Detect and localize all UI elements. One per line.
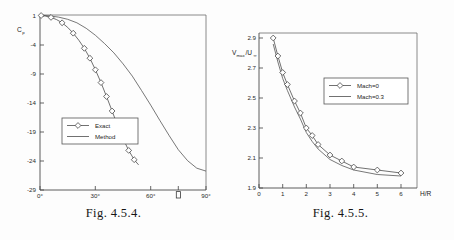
- plot-axes: [40, 15, 206, 190]
- x-tick-label: 2: [305, 190, 309, 197]
- legend-vmax: Mach=0 Mach=0.3: [324, 78, 408, 104]
- plot-frame: [40, 15, 206, 190]
- figure-left: 1 -4 -9 -14 -19 -24 -29 C p: [0, 0, 227, 240]
- x-axis-tick-labels: 0° 30° 60° 90°: [37, 192, 211, 199]
- y-tick-label: -29: [27, 186, 37, 193]
- y-tick-label: -24: [27, 157, 37, 164]
- figure-caption-left: Fig. 4.5.4.: [0, 206, 227, 221]
- x-tick-label: 3: [328, 190, 332, 197]
- y-axis-title-sub: p: [22, 30, 25, 35]
- missing-glyph-box-icon: [176, 192, 180, 198]
- x-tick-label: 30°: [91, 192, 101, 199]
- x-tick-label: 90°: [201, 192, 211, 199]
- y-tick-label: 2.5: [247, 94, 256, 101]
- y-tick-label: -19: [27, 128, 37, 135]
- legend-label-method: Method: [95, 133, 115, 140]
- y-tick-label: 2.1: [247, 154, 256, 161]
- plot-frame: [259, 33, 417, 188]
- x-axis-title: H/R: [420, 190, 432, 197]
- y-tick-label: 1.9: [247, 184, 256, 191]
- x-axis-tick-labels: 0 1 2 3 4 5 6: [257, 190, 403, 197]
- y-tick-label: 2.3: [247, 124, 256, 131]
- figure-right: 2.9 2.7 2.5 2.3 2.1 1.9 V max /U ∞: [227, 0, 454, 240]
- y-axis-ticks: [259, 38, 263, 188]
- series-method-line: [40, 15, 206, 171]
- x-tick-label: 60°: [146, 192, 156, 199]
- x-axis-ticks: [259, 184, 401, 188]
- y-axis-title: V max /U ∞: [232, 49, 257, 58]
- x-tick-label: 0°: [37, 192, 43, 199]
- plot-area-vmax: 2.9 2.7 2.5 2.3 2.1 1.9 V max /U ∞: [227, 0, 454, 205]
- y-tick-label: 1: [33, 12, 37, 19]
- x-axis-ticks: [40, 186, 206, 190]
- y-axis-ticks: [40, 16, 44, 190]
- legend-label-exact: Exact: [95, 122, 111, 129]
- y-tick-label: 2.7: [247, 64, 256, 71]
- legend-cp: Exact Method: [62, 118, 138, 144]
- y-tick-label: 2.9: [247, 34, 256, 41]
- y-axis-tick-labels: 1 -4 -9 -14 -19 -24 -29: [27, 12, 37, 193]
- y-axis-title-slash-u: /U: [246, 49, 253, 56]
- x-tick-label: 4: [352, 190, 356, 197]
- y-tick-label: -4: [30, 41, 36, 48]
- chart-vmax: 2.9 2.7 2.5 2.3 2.1 1.9 V max /U ∞: [227, 0, 454, 205]
- x-tick-label: 1: [281, 190, 285, 197]
- y-tick-label: -9: [30, 70, 36, 77]
- series-mach0-markers: [270, 35, 404, 176]
- chart-cp: 1 -4 -9 -14 -19 -24 -29 C p: [0, 0, 227, 205]
- plot-area-cp: 1 -4 -9 -14 -19 -24 -29 C p: [0, 0, 227, 205]
- legend-label-mach03: Mach=0.3: [357, 93, 385, 100]
- figure-caption-right: Fig. 4.5.5.: [227, 206, 454, 221]
- y-axis-title-v-sub: max: [237, 53, 246, 58]
- figure-page: 1 -4 -9 -14 -19 -24 -29 C p: [0, 0, 454, 240]
- x-tick-label: 0: [257, 190, 261, 197]
- y-axis-title: C p: [17, 26, 25, 35]
- y-tick-label: -14: [27, 99, 37, 106]
- series-mach03-line: [273, 44, 401, 176]
- y-axis-title-u-sub: ∞: [254, 53, 257, 58]
- series-mach0-line: [273, 38, 401, 173]
- x-tick-label: 6: [399, 190, 403, 197]
- plot-axes: [259, 33, 417, 188]
- legend-label-mach0: Mach=0: [357, 82, 379, 89]
- x-tick-label: 5: [376, 190, 380, 197]
